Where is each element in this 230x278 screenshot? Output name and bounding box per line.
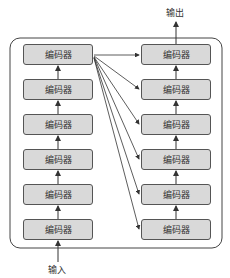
input-label: 输入 xyxy=(48,263,66,276)
right-encoder-1: 编码器 xyxy=(141,219,211,240)
left-encoder-2: 编码器 xyxy=(23,184,93,205)
left-encoder-3: 编码器 xyxy=(23,149,93,170)
right-encoder-3: 编码器 xyxy=(141,149,211,170)
left-encoder-5: 编码器 xyxy=(23,79,93,100)
left-encoder-1: 编码器 xyxy=(23,219,93,240)
fanout-arrows xyxy=(94,55,139,229)
left-encoder-4: 编码器 xyxy=(23,114,93,135)
right-encoder-4: 编码器 xyxy=(141,114,211,135)
output-label: 输出 xyxy=(166,6,184,19)
right-encoder-6: 编码器 xyxy=(141,44,211,65)
right-encoder-5: 编码器 xyxy=(141,79,211,100)
left-encoder-6: 编码器 xyxy=(23,44,93,65)
right-encoder-2: 编码器 xyxy=(141,184,211,205)
